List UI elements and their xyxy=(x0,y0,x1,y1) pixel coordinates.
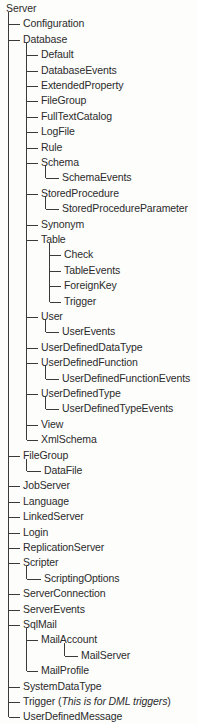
tree-connector-horizontal xyxy=(27,86,38,87)
tree-connector-horizontal xyxy=(46,209,59,210)
tree-connector-horizontal xyxy=(27,117,38,118)
tree-connector-vertical xyxy=(49,243,50,302)
tree-connector-horizontal xyxy=(27,425,38,426)
tree-connector-horizontal xyxy=(46,409,59,410)
tree-node-label: Rule xyxy=(41,140,62,155)
tree-connector-horizontal xyxy=(27,101,38,102)
tree-node-label: Server xyxy=(6,1,36,16)
tree-node-label: User xyxy=(41,309,63,324)
tree-node-label: Login xyxy=(23,525,48,540)
tree-connector-horizontal xyxy=(46,178,59,179)
tree-connector-horizontal xyxy=(27,148,38,149)
tree-connector-horizontal xyxy=(9,533,20,534)
tree-node-note-close: ) xyxy=(167,695,170,707)
tree-connector-horizontal xyxy=(9,24,20,25)
tree-connector-horizontal xyxy=(27,671,38,672)
tree-connector-horizontal xyxy=(65,656,78,657)
tree-connector-horizontal xyxy=(9,502,20,503)
tree-node-label: SystemDataType xyxy=(23,679,102,694)
tree-node-label: SqlMail xyxy=(23,617,57,632)
tree-connector-horizontal xyxy=(27,163,38,164)
tree-node-label: ScriptingOptions xyxy=(44,571,119,586)
tree-node-label: Synonym xyxy=(41,217,84,232)
tree-connector-horizontal xyxy=(50,271,61,272)
tree-node-label: UserEvents xyxy=(62,324,115,339)
tree-connector-horizontal xyxy=(27,348,38,349)
tree-node-label: Trigger (This is for DML triggers) xyxy=(23,694,171,709)
tree-connector-horizontal xyxy=(27,194,38,195)
tree-connector-horizontal xyxy=(9,548,20,549)
tree-node-label: Default xyxy=(41,47,74,62)
tree-connector-horizontal xyxy=(27,471,41,472)
tree-connector-horizontal xyxy=(27,132,38,133)
tree-node-label: MailProfile xyxy=(41,663,89,678)
tree-node-label: Schema xyxy=(41,155,79,170)
tree-connector-horizontal xyxy=(27,225,38,226)
tree-connector-horizontal xyxy=(27,579,41,580)
tree-node-label: DatabaseEvents xyxy=(41,63,117,78)
tree-connector-horizontal xyxy=(9,594,20,595)
tree-node-label: FileGroup xyxy=(23,448,68,463)
tree-node-label: ServerConnection xyxy=(23,586,105,601)
tree-connector-vertical xyxy=(8,12,9,717)
tree-connector-vertical xyxy=(26,628,27,671)
tree-node-label: View xyxy=(41,417,63,432)
tree-connector-horizontal xyxy=(27,640,38,641)
tree-node-label: Configuration xyxy=(23,16,84,31)
tree-node-label: SchemaEvents xyxy=(62,170,131,185)
tree-connector-horizontal xyxy=(9,40,20,41)
tree-connector-horizontal xyxy=(9,702,20,703)
tree-node-label: MailServer xyxy=(81,648,130,663)
tree-node-label: FileGroup xyxy=(41,93,86,108)
tree-connector-horizontal xyxy=(9,517,20,518)
tree-connector-horizontal xyxy=(46,379,59,380)
tree-node-label: UserDefinedMessage xyxy=(23,709,122,724)
tree-connector-horizontal xyxy=(50,286,61,287)
tree-node-label: LinkedServer xyxy=(23,509,84,524)
tree-connector-horizontal xyxy=(9,486,20,487)
tree-connector-horizontal xyxy=(9,456,20,457)
tree-connector-horizontal xyxy=(9,717,20,718)
tree-node-label: UserDefinedType xyxy=(41,386,121,401)
tree-node-label: ServerEvents xyxy=(23,602,85,617)
tree-connector-horizontal xyxy=(9,687,20,688)
tree-connector-horizontal xyxy=(27,55,38,56)
tree-node-label: ReplicationServer xyxy=(23,540,104,555)
tree-connector-vertical xyxy=(26,43,27,440)
tree-node-label: DataFile xyxy=(44,463,82,478)
tree-node-label: StoredProcedure xyxy=(41,186,119,201)
tree-node-label: Table xyxy=(41,232,66,247)
tree-node-label: Scripter xyxy=(23,555,58,570)
tree-node-label: UserDefinedDataType xyxy=(41,340,142,355)
tree-node-label: Language xyxy=(23,494,69,509)
tree-node-label: LogFile xyxy=(41,124,75,139)
tree-node-label: ForeignKey xyxy=(64,278,117,293)
tree-connector-horizontal xyxy=(9,610,20,611)
tree-connector-horizontal xyxy=(27,317,38,318)
tree-connector-horizontal xyxy=(46,332,59,333)
tree-connector-horizontal xyxy=(50,302,61,303)
tree-node-label: FullTextCatalog xyxy=(41,109,112,124)
tree-connector-horizontal xyxy=(9,625,20,626)
tree-node-label: Trigger xyxy=(64,294,96,309)
tree-node-label: Check xyxy=(64,247,93,262)
tree-connector-horizontal xyxy=(9,563,20,564)
tree-node-label: StoredProcedureParameter xyxy=(62,201,188,216)
tree-connector-horizontal xyxy=(27,363,38,364)
tree-node-label: Database xyxy=(23,32,67,47)
tree-connector-horizontal xyxy=(27,440,38,441)
tree-connector-horizontal xyxy=(27,71,38,72)
tree-node-label: ExtendedProperty xyxy=(41,78,123,93)
tree-node-note-italic: This is for DML triggers xyxy=(61,695,167,707)
tree-node-label: MailAccount xyxy=(41,632,97,647)
tree-connector-horizontal xyxy=(27,394,38,395)
tree-node-label: TableEvents xyxy=(64,263,120,278)
tree-node-label: UserDefinedTypeEvents xyxy=(62,401,173,416)
tree-connector-horizontal xyxy=(27,240,38,241)
tree-connector-horizontal xyxy=(50,255,61,256)
tree-node-label: XmlSchema xyxy=(41,432,97,447)
tree-node-label: UserDefinedFunction xyxy=(41,355,138,370)
tree-node-label: UserDefinedFunctionEvents xyxy=(62,371,190,386)
tree-node-label: JobServer xyxy=(23,478,70,493)
